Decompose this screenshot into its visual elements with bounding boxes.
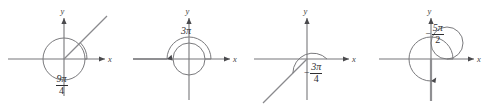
angle-denominator: 4 bbox=[59, 86, 64, 97]
angle-denominator: 4 bbox=[314, 74, 319, 85]
y-axis-arrowhead bbox=[304, 18, 309, 24]
terminal-ray bbox=[64, 16, 107, 59]
y-axis-label: y bbox=[60, 6, 65, 16]
x-axis-arrowhead bbox=[468, 56, 474, 61]
y-axis-label: y bbox=[426, 6, 431, 16]
angle-fraction: 3π4 bbox=[310, 62, 322, 84]
angle-panel-1: x y 9π4 bbox=[0, 0, 125, 108]
angle-label-3: −3π4 bbox=[304, 62, 322, 84]
x-axis-label: x bbox=[476, 54, 481, 64]
angle-panel-2: x y 3π bbox=[125, 0, 250, 108]
angle-label-1: 9π4 bbox=[55, 74, 68, 96]
spiral-arrowhead bbox=[167, 55, 173, 61]
angle-diagram-strip: x y 9π4 x y 3π bbox=[0, 0, 498, 108]
y-axis-arrowhead bbox=[186, 18, 191, 24]
angle-label-2: 3π bbox=[181, 26, 192, 36]
angle-panel-3: x y −3π4 bbox=[249, 0, 374, 108]
x-axis-arrowhead bbox=[343, 56, 349, 61]
y-axis-arrowhead bbox=[61, 18, 66, 24]
angle-numerator: 9π bbox=[56, 74, 68, 86]
y-axis-label: y bbox=[303, 6, 308, 16]
x-axis-label: x bbox=[107, 54, 112, 64]
x-axis-arrowhead bbox=[99, 56, 105, 61]
angle-panel-4: x y −5π2 bbox=[374, 0, 498, 108]
angle-label-4: −5π2 bbox=[426, 23, 444, 45]
angle-fraction: 9π4 bbox=[56, 74, 68, 96]
angle-value: 3π bbox=[181, 25, 191, 36]
y-axis-label: y bbox=[184, 6, 189, 16]
terminal-ray bbox=[263, 59, 307, 103]
x-axis-label: x bbox=[351, 54, 356, 64]
x-axis-label: x bbox=[232, 54, 237, 64]
angle-fraction: 5π2 bbox=[432, 23, 444, 45]
angle-numerator: 3π bbox=[310, 62, 322, 74]
x-axis-arrowhead bbox=[224, 56, 230, 61]
angle-numerator: 5π bbox=[432, 23, 444, 35]
angle-denominator: 2 bbox=[435, 35, 440, 46]
